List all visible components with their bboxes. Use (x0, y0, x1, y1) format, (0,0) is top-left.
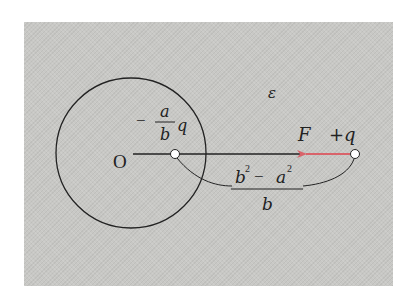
real-charge-dot (351, 150, 360, 159)
image-charge-sign: − (136, 111, 146, 130)
distance-bracket-left (177, 158, 232, 186)
sphere-image-charge-diagram: O ε − a b q F +q b 2 − a 2 b (0, 0, 408, 299)
image-charge-dot (171, 150, 180, 159)
center-label: O (113, 151, 127, 172)
distance-numerator-a: a (276, 167, 286, 187)
conducting-sphere (56, 78, 206, 228)
distance-numerator-minus: − (254, 167, 264, 186)
distance-numerator-a-exp: 2 (287, 163, 292, 174)
image-charge-numerator: a (160, 102, 170, 121)
force-label: F (297, 124, 312, 145)
permittivity-label: ε (268, 84, 276, 102)
image-charge-symbol: q (177, 116, 187, 135)
image-charge-denominator: b (160, 125, 170, 144)
real-charge-label: +q (329, 124, 356, 145)
distance-denominator: b (262, 194, 273, 214)
distance-bracket-right (303, 159, 354, 186)
distance-numerator-b-exp: 2 (245, 163, 250, 174)
